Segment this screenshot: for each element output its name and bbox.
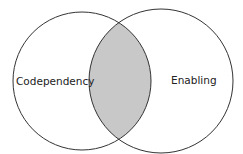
venn-diagram: Codependency Enabling [0, 0, 243, 154]
label-codependency: Codependency [16, 75, 94, 87]
label-enabling: Enabling [171, 74, 217, 86]
